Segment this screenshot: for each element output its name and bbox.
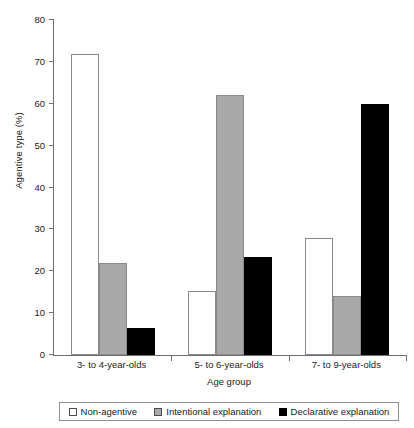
bar xyxy=(244,257,272,355)
x-axis-group-label: 3- to 4-year-olds xyxy=(53,359,170,370)
x-tick xyxy=(406,355,407,361)
bar xyxy=(188,291,216,355)
y-tick: 10 xyxy=(49,312,54,313)
legend-item[interactable]: Intentional explanation xyxy=(154,406,261,417)
bar xyxy=(361,104,389,355)
y-tick-label: 0 xyxy=(40,348,45,361)
plot-area: 01020304050607080 xyxy=(53,20,406,356)
y-tick-label: 80 xyxy=(34,13,45,26)
bar-group xyxy=(188,20,272,355)
bar xyxy=(333,296,361,355)
y-tick: 40 xyxy=(49,187,54,188)
legend-item[interactable]: Declarative explanation xyxy=(279,406,390,417)
y-tick-label: 50 xyxy=(34,139,45,152)
y-tick: 60 xyxy=(49,103,54,104)
x-axis-title: Age group xyxy=(53,376,405,387)
legend-item[interactable]: Non-agentive xyxy=(69,406,138,417)
y-tick-label: 10 xyxy=(34,306,45,319)
y-tick: 30 xyxy=(49,228,54,229)
legend-swatch-gray xyxy=(154,408,162,416)
y-tick: 50 xyxy=(49,145,54,146)
y-tick-label: 30 xyxy=(34,222,45,235)
legend-swatch-black xyxy=(279,408,287,416)
bar xyxy=(216,95,244,355)
y-tick: 20 xyxy=(49,270,54,271)
bar xyxy=(305,238,333,355)
y-tick-label: 70 xyxy=(34,55,45,68)
x-axis-group-label: 5- to 6-year-olds xyxy=(170,359,287,370)
y-tick: 80 xyxy=(49,19,54,20)
legend-swatch-white xyxy=(69,408,77,416)
bar xyxy=(99,263,127,355)
x-axis-group-label: 7- to 9-year-olds xyxy=(288,359,405,370)
bar-chart: Agentive type (%) 01020304050607080 3- t… xyxy=(0,0,414,428)
legend-label: Non-agentive xyxy=(81,406,138,417)
legend-label: Declarative explanation xyxy=(291,406,390,417)
y-tick: 70 xyxy=(49,61,54,62)
y-tick-label: 60 xyxy=(34,97,45,110)
bar xyxy=(71,54,99,356)
legend-label: Intentional explanation xyxy=(166,406,261,417)
bar-group xyxy=(305,20,389,355)
y-tick-label: 40 xyxy=(34,181,45,194)
y-tick: 0 xyxy=(49,354,54,355)
bar-group xyxy=(71,20,155,355)
legend: Non-agentiveIntentional explanationDecla… xyxy=(59,402,399,421)
bar xyxy=(127,328,155,355)
y-tick-label: 20 xyxy=(34,264,45,277)
y-axis-title: Agentive type (%) xyxy=(13,71,24,231)
